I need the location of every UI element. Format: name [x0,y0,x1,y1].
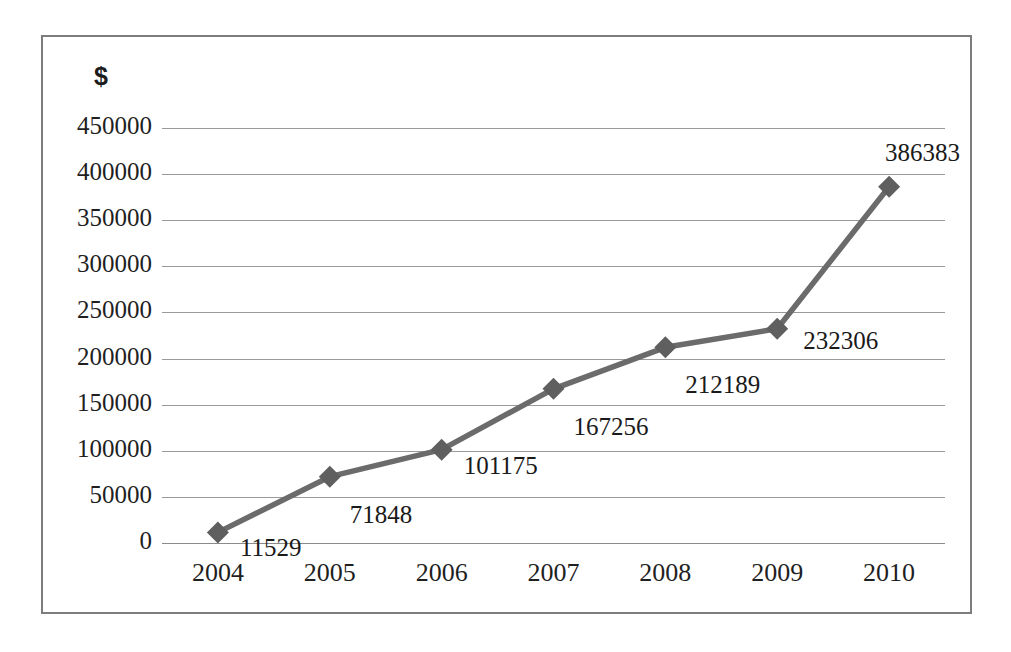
x-axis-tick-label: 2010 [834,558,944,588]
data-value-label: 386383 [885,139,960,167]
x-axis-tick-label: 2008 [610,558,720,588]
data-value-label: 167256 [574,413,649,441]
data-value-label: 101175 [464,452,538,480]
x-axis-tick-label: 2006 [387,558,497,588]
x-axis-tick-label: 2005 [275,558,385,588]
chart-figure: $ 45000040000035000030000025000020000015… [0,0,1011,652]
data-value-label: 11529 [240,534,302,562]
data-value-label: 71848 [350,501,413,529]
x-axis-tick-label: 2009 [722,558,832,588]
x-axis-tick-label: 2004 [163,558,273,588]
data-value-label: 232306 [803,327,878,355]
data-value-label: 212189 [685,371,760,399]
x-axis-tick-label: 2007 [499,558,609,588]
